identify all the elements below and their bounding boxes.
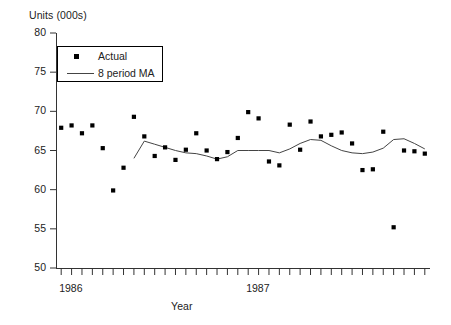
chart-legend: Actual 8 period MA [57, 46, 163, 82]
square-marker-icon [64, 48, 96, 65]
y-tick-label: 55 [22, 222, 46, 234]
y-tick-label: 60 [22, 183, 46, 195]
legend-label-moving-average: 8 period MA [98, 67, 155, 79]
y-tick-label: 70 [22, 104, 46, 116]
y-tick-label: 80 [22, 26, 46, 38]
x-axis-ticks [61, 269, 425, 276]
line-segment-icon [64, 65, 96, 82]
legend-label-actual: Actual [98, 50, 127, 62]
y-tick-label: 75 [22, 65, 46, 77]
legend-entry-actual: Actual [58, 48, 162, 65]
moving-average-line [134, 139, 425, 159]
x-tick-label: 1986 [59, 282, 82, 294]
y-tick-label: 50 [22, 261, 46, 273]
y-axis-ticks [50, 33, 56, 268]
legend-entry-moving-average: 8 period MA [58, 65, 162, 82]
x-tick-label: 1987 [246, 282, 269, 294]
chart-container: Units (000s) Year 50556065707580 1986198… [0, 0, 451, 325]
actual-data-markers [59, 110, 427, 229]
y-tick-label: 65 [22, 144, 46, 156]
